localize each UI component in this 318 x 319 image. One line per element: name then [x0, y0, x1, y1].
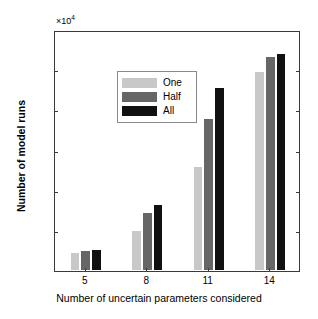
plot-area: OneHalfAll [54, 31, 300, 272]
y-axis-tick-mark [296, 192, 300, 193]
bar [193, 166, 204, 271]
bar [276, 53, 287, 272]
bar [214, 87, 225, 271]
y-axis-tick-mark [54, 232, 58, 233]
exponent-power: 4 [71, 14, 75, 21]
y-axis-tick-mark [296, 71, 300, 72]
legend-item[interactable]: Half [122, 90, 191, 104]
x-axis-tick-label: 14 [249, 275, 289, 286]
figure: Number of model runs ×104 OneHalfAll 00.… [0, 0, 318, 319]
legend-swatch [122, 106, 157, 116]
exponent-base: ×10 [56, 16, 71, 26]
x-axis-tick-mark [269, 268, 270, 272]
bar [265, 56, 276, 271]
legend-label: Half [163, 92, 181, 102]
y-axis-title: Number of model runs [15, 56, 27, 256]
x-axis-tick-mark [85, 268, 86, 272]
bars-layer [55, 32, 299, 271]
bar [153, 204, 164, 271]
bar [131, 230, 142, 271]
legend-swatch [122, 92, 157, 102]
y-axis-tick-mark [54, 71, 58, 72]
legend-item[interactable]: All [122, 104, 191, 118]
bar-group [70, 32, 102, 271]
y-axis-tick-mark [54, 152, 58, 153]
bar-group [254, 32, 286, 271]
x-axis-tick-label: 5 [65, 275, 105, 286]
y-axis-exponent-label: ×104 [56, 14, 75, 26]
y-axis-tick-mark [54, 192, 58, 193]
bar [203, 118, 214, 271]
legend-label: One [163, 78, 182, 88]
x-axis-tick-label: 8 [126, 275, 166, 286]
y-axis-tick-mark [54, 111, 58, 112]
bar [254, 71, 265, 271]
legend: OneHalfAll [117, 71, 197, 123]
bar [142, 212, 153, 271]
y-axis-tick-mark [296, 152, 300, 153]
legend-swatch [122, 78, 157, 88]
x-axis-tick-mark [208, 268, 209, 272]
legend-item[interactable]: One [122, 76, 191, 90]
x-axis-title: Number of uncertain parameters considere… [0, 292, 318, 304]
y-axis-tick-mark [296, 232, 300, 233]
x-axis-tick-mark [146, 268, 147, 272]
bar [91, 249, 102, 271]
bar-group [131, 32, 163, 271]
legend-label: All [163, 106, 174, 116]
y-axis-tick-mark [54, 31, 58, 32]
bar [70, 252, 81, 271]
y-axis-tick-mark [296, 31, 300, 32]
y-axis-tick-mark [296, 111, 300, 112]
bar-group [193, 32, 225, 271]
x-axis-tick-label: 11 [188, 275, 228, 286]
